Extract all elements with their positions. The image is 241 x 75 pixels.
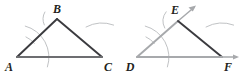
vertex-label-B: B — [52, 2, 61, 16]
vertex-label-F: F — [223, 60, 232, 74]
vertex-label-D: D — [125, 60, 135, 74]
vertex-label-E: E — [170, 3, 179, 17]
construction-canvas: A B C — [0, 0, 241, 75]
vertex-label-A: A — [4, 60, 13, 74]
geometry-figure: A B C — [0, 0, 241, 75]
vertex-label-C: C — [104, 60, 113, 74]
